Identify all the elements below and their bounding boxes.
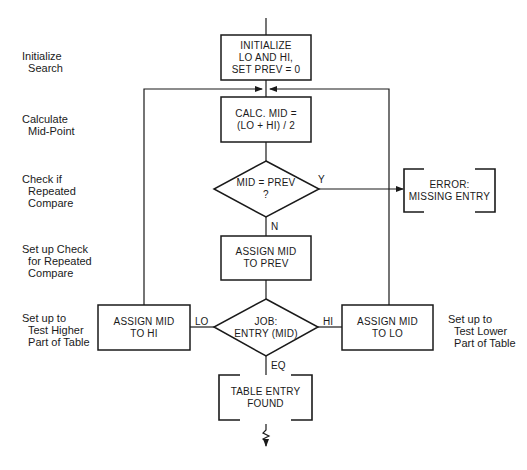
side-label-setup-lower: Set up to Test Lower Part of Table (448, 313, 516, 349)
init-box-text: INITIALIZE LO AND HI, SET PREV = 0 (221, 35, 311, 80)
assign-hi-box-text: ASSIGN MID TO HI (98, 305, 190, 350)
error-bracket-text: ERROR: MISSING ENTRY (404, 169, 495, 212)
side-label-calculate: Calculate Mid-Point (22, 113, 75, 137)
exit-arrow (263, 424, 269, 446)
check-prev-diamond-text: MID = PREV ? (226, 175, 306, 203)
assign-prev-box-text: ASSIGN MID TO PREV (221, 236, 311, 280)
edge-label-lo: LO (195, 316, 208, 327)
side-label-setup-check: Set up Check for Repeated Compare (22, 243, 92, 279)
edge-label-eq: EQ (271, 360, 285, 371)
side-label-initialize: Initialize Search (22, 50, 63, 74)
edge-label-no: N (271, 221, 278, 232)
side-label-check: Check if Repeated Compare (22, 173, 76, 209)
found-bracket-text: TABLE ENTRY FOUND (219, 375, 312, 420)
calc-box-text: CALC. MID = (LO + HI) / 2 (221, 97, 311, 142)
edge-label-hi: HI (323, 316, 333, 327)
assign-lo-box-text: ASSIGN MID TO LO (342, 305, 433, 350)
edge-label-yes: Y (318, 174, 325, 185)
side-label-setup-higher: Set up to Test Higher Part of Table (22, 312, 90, 348)
compare-diamond-text: JOB: ENTRY (MID) (221, 314, 311, 342)
